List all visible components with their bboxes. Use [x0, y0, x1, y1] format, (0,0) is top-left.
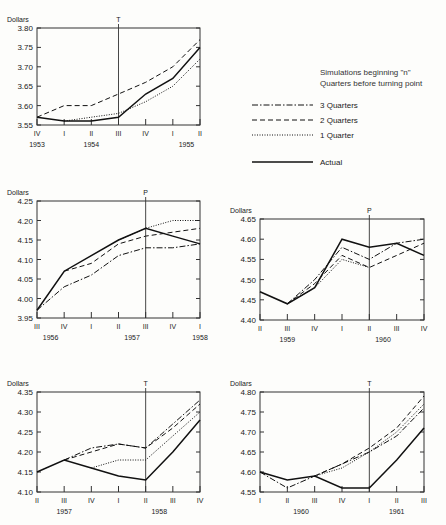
- series-line-actual: [37, 420, 200, 480]
- x-year-label: 1960: [293, 508, 309, 515]
- plot-frame: [37, 392, 200, 492]
- y-tick-label: 4.20: [17, 448, 33, 457]
- y-tick-label: 4.25: [17, 428, 33, 437]
- x-tick-label: II: [258, 325, 262, 332]
- plot-frame: [37, 201, 200, 318]
- series-line-q3: [287, 239, 424, 304]
- x-tick-label: IV: [88, 497, 95, 504]
- x-tick-label: IV: [339, 497, 346, 504]
- series-line-q1: [64, 59, 200, 121]
- x-tick-label: II: [198, 130, 202, 137]
- y-tick-label: 4.00: [17, 295, 33, 304]
- x-tick-label: I: [199, 323, 201, 330]
- x-tick-label: I: [90, 323, 92, 330]
- turning-point-label: T: [116, 16, 121, 23]
- x-tick-label: II: [117, 323, 121, 330]
- y-tick-label: 4.60: [240, 468, 256, 477]
- legend-label-q3: 3 Quarters: [320, 101, 358, 110]
- x-tick-label: III: [394, 325, 400, 332]
- x-tick-label: II: [35, 497, 39, 504]
- series-line-actual: [260, 239, 424, 304]
- x-tick-label: IV: [34, 130, 41, 137]
- x-tick-label: I: [368, 497, 370, 504]
- turning-point-label: P: [143, 189, 148, 196]
- y-tick-label: 4.25: [17, 197, 33, 206]
- x-tick-label: IV: [142, 130, 149, 137]
- x-year-label: 1953: [29, 141, 45, 148]
- y-tick-label: 4.40: [240, 316, 256, 325]
- y-axis-label: Dollars: [230, 207, 252, 214]
- y-tick-label: 4.10: [17, 488, 33, 497]
- y-tick-label: 4.05: [17, 275, 33, 284]
- legend-title-line-1: Simulations beginning "n": [320, 67, 422, 78]
- x-tick-label: III: [170, 497, 176, 504]
- x-tick-label: I: [172, 130, 174, 137]
- x-tick-label: II: [395, 497, 399, 504]
- turning-point-label: T: [367, 380, 372, 387]
- x-tick-label: III: [34, 323, 40, 330]
- series-line-actual: [260, 428, 424, 488]
- x-tick-label: II: [89, 130, 93, 137]
- y-tick-label: 4.45: [240, 296, 256, 305]
- x-year-label: 1954: [84, 141, 100, 148]
- y-tick-label: 3.55: [17, 121, 33, 130]
- y-tick-label: 3.60: [17, 102, 33, 111]
- y-tick-label: 4.80: [240, 388, 256, 397]
- x-year-label: 1960: [375, 336, 391, 343]
- x-tick-label: IV: [170, 323, 177, 330]
- x-tick-label: III: [421, 497, 427, 504]
- x-tick-label: I: [118, 497, 120, 504]
- chart-4: Dollars4.104.154.204.254.304.35IIIIIIVII…: [7, 380, 204, 515]
- x-tick-label: III: [61, 497, 67, 504]
- x-tick-label: II: [285, 497, 289, 504]
- series-line-q2: [64, 404, 200, 460]
- y-tick-label: 4.30: [17, 408, 33, 417]
- x-tick-label: IV: [311, 325, 318, 332]
- x-tick-label: I: [259, 497, 261, 504]
- y-tick-label: 3.75: [17, 43, 33, 52]
- y-tick-label: 4.20: [17, 217, 33, 226]
- x-tick-label: IV: [197, 497, 204, 504]
- legend-label-actual: Actual: [320, 158, 342, 167]
- x-tick-label: III: [284, 325, 290, 332]
- legend-title: Simulations beginning "n" Quarters befor…: [320, 67, 422, 89]
- x-tick-label: II: [367, 325, 371, 332]
- x-tick-label: III: [312, 497, 318, 504]
- y-axis-label: Dollars: [7, 189, 29, 196]
- x-tick-label: I: [63, 130, 65, 137]
- x-year-label: 1959: [280, 336, 296, 343]
- plot-frame: [260, 219, 424, 320]
- x-tick-label: IV: [421, 325, 428, 332]
- legend-title-line-2: Quarters before turning point: [320, 78, 422, 89]
- y-tick-label: 4.75: [240, 408, 256, 417]
- y-axis-label: Dollars: [7, 380, 29, 387]
- y-tick-label: 3.80: [17, 24, 33, 33]
- x-year-label: 1955: [179, 141, 195, 148]
- chart-5: Dollars4.554.604.654.704.754.80IIIIIIIVI…: [230, 380, 427, 515]
- x-year-label: 1958: [192, 334, 208, 341]
- y-tick-label: 4.10: [17, 256, 33, 265]
- y-tick-label: 4.55: [240, 488, 256, 497]
- y-tick-label: 4.70: [240, 428, 256, 437]
- legend-label-q2: 2 Quarters: [320, 116, 358, 125]
- x-year-label: 1957: [124, 334, 140, 341]
- legend-label-q1: 1 Quarter: [320, 131, 354, 140]
- y-tick-label: 4.50: [240, 276, 256, 285]
- y-tick-label: 3.95: [17, 314, 33, 323]
- x-year-label: 1957: [56, 508, 72, 515]
- turning-point-label: T: [144, 380, 149, 387]
- x-tick-label: IV: [61, 323, 68, 330]
- x-tick-label: II: [144, 497, 148, 504]
- y-tick-label: 4.65: [240, 448, 256, 457]
- y-tick-label: 4.65: [240, 215, 256, 224]
- y-tick-label: 4.35: [17, 388, 33, 397]
- y-tick-label: 3.65: [17, 82, 33, 91]
- series-line-q2: [287, 243, 424, 304]
- x-tick-label: III: [143, 323, 149, 330]
- y-tick-label: 4.55: [240, 255, 256, 264]
- legend: 3 Quarters2 Quarters1 QuarterActual: [252, 101, 358, 167]
- plot-frame: [260, 392, 424, 492]
- x-year-label: 1961: [389, 508, 405, 515]
- series-line-actual: [37, 228, 200, 310]
- x-year-label: 1958: [151, 508, 167, 515]
